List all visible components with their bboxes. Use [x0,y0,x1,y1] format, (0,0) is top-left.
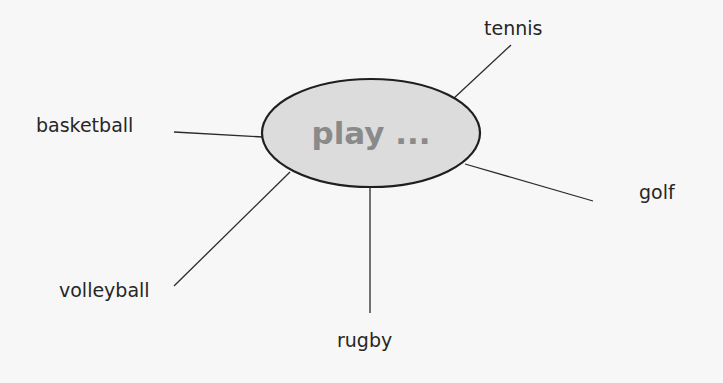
hub-label: play ... [311,118,430,149]
spoke-label-rugby: rugby [337,331,392,350]
spoke-label-golf: golf [639,183,675,202]
connector-basketball [174,132,263,137]
connector-volleyball [174,172,290,286]
connector-tennis [453,45,511,99]
spoke-label-basketball: basketball [36,116,133,135]
diagram-graphics [0,0,723,383]
spider-diagram: play ... tennis basketball golf volleyba… [0,0,723,383]
spoke-label-volleyball: volleyball [59,281,150,300]
connector-golf [465,164,593,201]
spoke-label-tennis: tennis [484,19,542,38]
